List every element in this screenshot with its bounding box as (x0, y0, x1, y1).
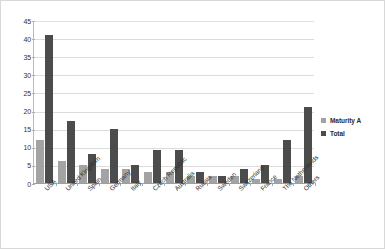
y-tick-label: 45 (5, 18, 31, 25)
bar-group (207, 21, 229, 183)
bar-maturity-a (36, 140, 44, 183)
bars-layer (34, 21, 314, 183)
bar-group (272, 21, 294, 183)
y-tick-label: 35 (5, 54, 31, 61)
bar-group (250, 21, 272, 183)
legend-item[interactable]: Maturity A (321, 114, 383, 127)
y-tick-mark (32, 166, 35, 167)
y-tick-label: 30 (5, 72, 31, 79)
y-tick-label: 0 (5, 181, 31, 188)
bar-total (45, 35, 53, 184)
legend-swatch-icon (321, 118, 326, 123)
bar-group (56, 21, 78, 183)
y-tick-label: 25 (5, 90, 31, 97)
bar-group (34, 21, 56, 183)
bar-group (99, 21, 121, 183)
plot-area (33, 21, 314, 184)
y-tick-label: 40 (5, 36, 31, 43)
y-tick-mark (32, 21, 35, 22)
chart-legend: Maturity ATotal (321, 114, 383, 140)
x-axis-labels: USAUnited KingdomSpainGermanyItalyCzech … (33, 185, 314, 249)
y-tick-mark (32, 93, 35, 94)
y-tick-mark (32, 148, 35, 149)
legend-label: Maturity A (330, 117, 361, 124)
y-tick-mark (32, 39, 35, 40)
legend-item[interactable]: Total (321, 127, 383, 140)
bar-group (229, 21, 251, 183)
y-tick-mark (32, 75, 35, 76)
y-tick-mark (32, 57, 35, 58)
legend-swatch-icon (321, 131, 326, 136)
bar-group (120, 21, 142, 183)
bar-total (110, 129, 118, 183)
bar-maturity-a (58, 161, 66, 183)
y-axis: 051015202530354045 (1, 1, 31, 249)
y-tick-label: 20 (5, 108, 31, 115)
bar-maturity-a (144, 172, 152, 183)
y-tick-label: 5 (5, 162, 31, 169)
y-tick-mark (32, 112, 35, 113)
y-tick-label: 15 (5, 126, 31, 133)
bar-chart: 051015202530354045 USAUnited KingdomSpai… (0, 0, 385, 249)
y-tick-label: 10 (5, 144, 31, 151)
bar-total (67, 121, 75, 183)
y-tick-mark (32, 130, 35, 131)
legend-label: Total (330, 130, 345, 137)
y-tick-mark (32, 184, 35, 185)
bar-group (185, 21, 207, 183)
bar-group (142, 21, 164, 183)
